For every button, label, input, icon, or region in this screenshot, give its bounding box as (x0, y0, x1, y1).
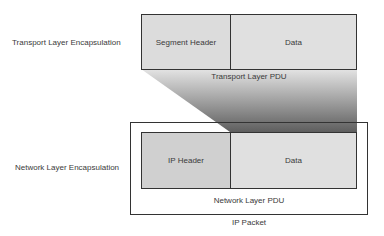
ip-packet-label: IP Packet (141, 218, 357, 227)
transport-layer-pdu-label: Transport Layer PDU (141, 72, 357, 81)
network-layer-encapsulation-label: Network Layer Encapsulation (15, 163, 119, 172)
network-data-cell: Data (231, 133, 356, 188)
transport-layer-encapsulation-label: Transport Layer Encapsulation (12, 38, 121, 47)
segment-header-label: Segment Header (156, 38, 216, 47)
ip-header-cell: IP Header (142, 133, 231, 188)
transport-data-cell: Data (231, 15, 356, 69)
transport-data-label: Data (285, 38, 302, 47)
network-layer-pdu-label: Network Layer PDU (141, 196, 357, 205)
network-layer-pdu-box: IP Header Data (141, 132, 357, 189)
transport-layer-pdu-box: Segment Header Data (141, 14, 357, 70)
ip-header-label: IP Header (168, 156, 204, 165)
segment-header-cell: Segment Header (142, 15, 231, 69)
network-data-label: Data (285, 156, 302, 165)
